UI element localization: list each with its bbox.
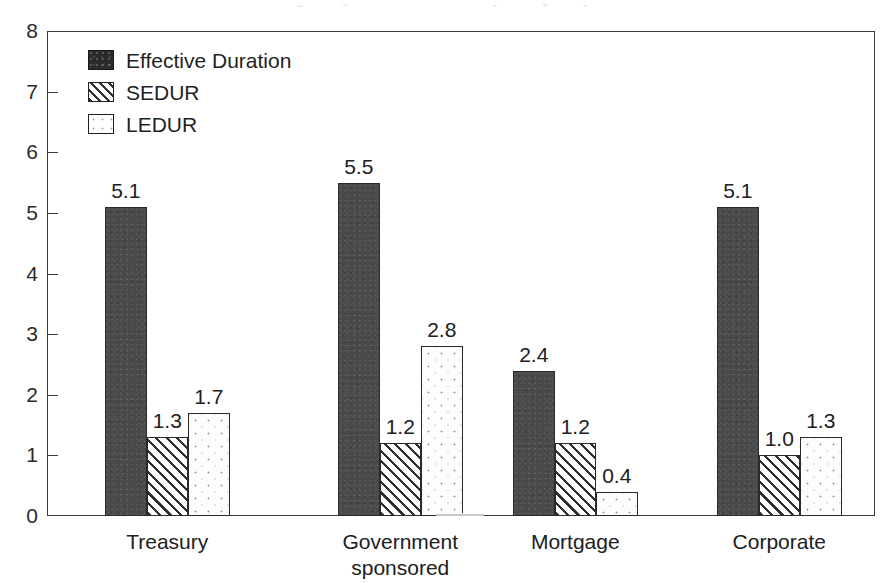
legend-swatch-hatch-icon	[88, 82, 114, 102]
bar	[105, 207, 147, 516]
y-axis-tick-label: 6	[14, 141, 38, 162]
y-axis-tick-mark	[47, 152, 58, 153]
y-axis-tick-label: 7	[14, 81, 38, 102]
bar	[380, 443, 422, 516]
y-axis-tick-label: 2	[14, 384, 38, 405]
scan-artifact	[0, 0, 896, 14]
legend-item-effective-duration: Effective Duration	[88, 46, 291, 74]
category-label-line1: Corporate	[669, 529, 889, 555]
y-axis-tick-mark	[47, 334, 58, 335]
bar-value-label: 5.1	[95, 180, 157, 201]
bar	[147, 437, 189, 516]
bar-value-label: 1.7	[178, 386, 240, 407]
bar-value-label: 1.2	[370, 416, 432, 437]
x-axis-category-label: Treasury	[57, 529, 277, 555]
bar	[759, 455, 801, 516]
chart-page: 876543210 5.15.52.45.11.31.21.21.01.72.8…	[0, 0, 896, 583]
bar-value-label: 1.0	[749, 428, 811, 449]
bar-value-label: 1.3	[790, 410, 852, 431]
bar-value-label: 1.2	[545, 416, 607, 437]
legend-swatch-dots-icon	[88, 114, 114, 134]
y-axis-tick-mark	[47, 395, 58, 396]
y-axis-tick-label: 4	[14, 263, 38, 284]
y-axis-tick-mark	[47, 455, 58, 456]
bar	[513, 371, 555, 517]
bar	[596, 492, 638, 516]
legend-item-sedur: SEDUR	[88, 78, 291, 106]
legend-item-ledur: LEDUR	[88, 110, 291, 138]
bar	[338, 183, 380, 516]
y-axis-tick-mark	[47, 213, 58, 214]
bar-value-label: 2.4	[503, 344, 565, 365]
category-label-line2: sponsored	[290, 555, 510, 581]
y-axis-tick-label: 8	[14, 20, 38, 41]
bar	[717, 207, 759, 516]
legend-label-effective-duration: Effective Duration	[126, 50, 291, 71]
y-axis-tick-label: 0	[14, 505, 38, 526]
y-axis-tick-mark	[47, 274, 58, 275]
bar-value-label: 5.1	[707, 180, 769, 201]
bar-value-label: 0.4	[586, 465, 648, 486]
baseline-artifact-line	[436, 514, 484, 516]
chart-legend: Effective Duration SEDUR LEDUR	[88, 46, 291, 142]
legend-label-ledur: LEDUR	[126, 114, 197, 135]
y-axis-tick-label: 5	[14, 202, 38, 223]
legend-swatch-solid-icon	[88, 50, 114, 70]
x-axis-category-label: Mortgage	[465, 529, 685, 555]
y-axis-tick-mark	[47, 92, 58, 93]
y-axis-tick-label: 1	[14, 444, 38, 465]
legend-label-sedur: SEDUR	[126, 82, 200, 103]
bar-value-label: 5.5	[328, 156, 390, 177]
y-axis-tick-label: 3	[14, 323, 38, 344]
bar-value-label: 2.8	[411, 319, 473, 340]
category-label-line1: Treasury	[57, 529, 277, 555]
category-label-line1: Mortgage	[465, 529, 685, 555]
x-axis-category-label: Corporate	[669, 529, 889, 555]
bar-value-label: 1.3	[137, 410, 199, 431]
